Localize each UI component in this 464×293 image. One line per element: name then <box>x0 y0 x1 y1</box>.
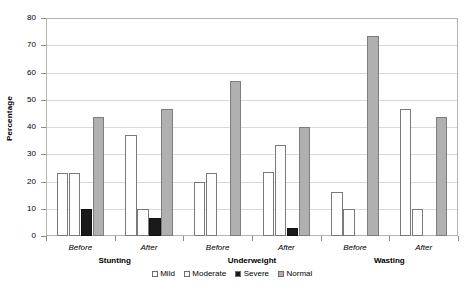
legend-swatch-icon <box>152 271 158 277</box>
x-tick-mark <box>252 236 253 241</box>
y-tick-label: 20 <box>8 178 36 186</box>
y-tick-label: 50 <box>8 96 36 104</box>
bar-normal-2 <box>230 81 242 236</box>
bar-normal-5 <box>436 117 448 236</box>
x-tick-mark <box>389 236 390 241</box>
x-group-label-stunting: Stunting <box>46 256 183 265</box>
legend-item-normal: Normal <box>278 270 312 278</box>
x-group-label-wasting: Wasting <box>321 256 458 265</box>
x-category-label: Before <box>321 243 390 252</box>
bar-normal-3 <box>299 127 311 236</box>
bar-moderate-1 <box>137 209 149 236</box>
y-tick-label: 0 <box>8 232 36 240</box>
legend-label: Moderate <box>192 270 226 278</box>
bar-mild-0 <box>57 173 69 236</box>
legend-label: Mild <box>160 270 175 278</box>
bars-layer <box>46 18 458 236</box>
bar-mild-1 <box>125 135 137 236</box>
bar-normal-0 <box>93 117 105 236</box>
bar-moderate-2 <box>206 173 218 236</box>
legend-item-mild: Mild <box>152 270 175 278</box>
bar-mild-3 <box>263 172 275 236</box>
legend-swatch-icon <box>184 271 190 277</box>
bar-normal-4 <box>367 36 379 236</box>
bar-severe-1 <box>149 218 161 236</box>
x-category-label: After <box>115 243 184 252</box>
y-tick-label: 30 <box>8 150 36 158</box>
y-axis-title: Percentage <box>2 0 18 236</box>
y-tick-label: 80 <box>8 14 36 22</box>
bar-mild-4 <box>331 192 343 236</box>
legend-item-severe: Severe <box>235 270 269 278</box>
legend-label: Severe <box>244 270 269 278</box>
bar-mild-5 <box>400 109 412 236</box>
x-group-label-underweight: Underweight <box>183 256 320 265</box>
y-tick-label: 40 <box>8 123 36 131</box>
bar-chart: Percentage 80706050403020100 BeforeAfter… <box>0 0 464 293</box>
bar-moderate-0 <box>69 173 81 236</box>
y-tick-label: 70 <box>8 41 36 49</box>
legend-swatch-icon <box>278 271 284 277</box>
legend-item-moderate: Moderate <box>184 270 226 278</box>
bar-moderate-5 <box>412 209 424 236</box>
legend-swatch-icon <box>235 271 241 277</box>
x-category-label: After <box>389 243 458 252</box>
x-category-label: After <box>252 243 321 252</box>
legend-label: Normal <box>287 270 313 278</box>
x-tick-mark <box>183 236 184 241</box>
bar-moderate-4 <box>343 209 355 236</box>
y-tick-label: 10 <box>8 205 36 213</box>
y-tick-label: 60 <box>8 69 36 77</box>
x-tick-mark <box>115 236 116 241</box>
bar-severe-3 <box>287 228 299 236</box>
bar-mild-2 <box>194 182 206 237</box>
x-category-label: Before <box>46 243 115 252</box>
x-tick-mark <box>458 236 459 241</box>
x-tick-mark <box>46 236 47 241</box>
x-tick-mark <box>321 236 322 241</box>
bar-normal-1 <box>161 109 173 236</box>
x-category-label: Before <box>183 243 252 252</box>
chart-legend: MildModerateSevereNormal <box>0 270 464 278</box>
bar-moderate-3 <box>275 145 287 236</box>
bar-severe-0 <box>81 209 93 236</box>
